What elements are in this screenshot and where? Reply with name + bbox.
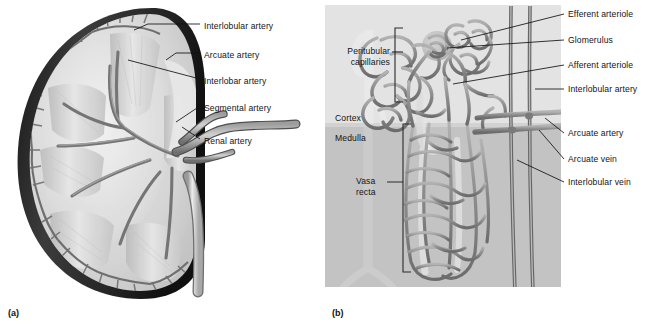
label-cortex: Cortex — [335, 113, 361, 124]
kidney-blood-supply-figure: Interlobular artery Arcuate artery Inter… — [0, 0, 650, 328]
label-arcuate-artery-b: Arcuate artery — [568, 128, 623, 139]
label-interlobular-artery-a: Interlobular artery — [204, 21, 273, 32]
label-medulla: Medulla — [335, 133, 366, 144]
label-interlobar-artery-a: Interlobar artery — [204, 76, 266, 87]
label-renal-artery-a: Renal artery — [204, 136, 252, 147]
panel-b-nephron-circulation: Peritubular capillaries Cortex Medulla V… — [325, 0, 650, 328]
label-efferent-arteriole: Efferent arteriole — [568, 9, 633, 20]
label-arcuate-vein: Arcuate vein — [568, 154, 617, 165]
label-vasa-recta: Vasa recta — [356, 176, 386, 197]
label-peritubular-capillaries: Peritubular capillaries — [328, 46, 390, 67]
label-arcuate-artery-a: Arcuate artery — [204, 50, 259, 61]
label-interlobular-artery-b: Interlobular artery — [568, 84, 637, 95]
panel-a-kidney-section: Interlobular artery Arcuate artery Inter… — [0, 0, 325, 328]
kidney-section-illustration — [0, 0, 325, 328]
panel-letter-a: (a) — [8, 308, 19, 318]
label-interlobular-vein: Interlobular vein — [568, 177, 631, 188]
label-glomerulus: Glomerulus — [568, 35, 613, 46]
label-afferent-arteriole: Afferent arteriole — [568, 60, 633, 71]
panel-letter-b: (b) — [332, 308, 344, 318]
label-segmental-artery-a: Segmental artery — [204, 103, 271, 114]
